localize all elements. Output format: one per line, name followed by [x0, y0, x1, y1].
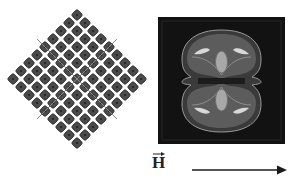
lattice-element-center	[92, 126, 94, 128]
lattice-element-center	[84, 134, 86, 136]
lattice-element-center	[132, 70, 134, 72]
lattice-element-center	[12, 78, 14, 80]
lattice-element-center	[60, 78, 62, 80]
lattice-element-center	[36, 102, 38, 104]
lattice-element-center	[44, 78, 46, 80]
lattice-element-center	[20, 86, 22, 88]
lattice-element-center	[76, 30, 78, 32]
lattice-element-center	[100, 86, 102, 88]
lattice-element-center	[108, 62, 110, 64]
lattice-element-center	[68, 134, 70, 136]
lattice-element-center	[36, 54, 38, 56]
lattice-element-center	[108, 78, 110, 80]
lattice-element-center	[92, 30, 94, 32]
lattice-element-center	[108, 94, 110, 96]
upper-core	[216, 51, 228, 73]
lattice-element-center	[76, 46, 78, 48]
lattice-element-center	[76, 142, 78, 144]
lattice-element-center	[132, 86, 134, 88]
lattice-element-center	[92, 110, 94, 112]
lattice-element-center	[60, 126, 62, 128]
lattice-element-center	[68, 118, 70, 120]
lattice-element-center	[36, 86, 38, 88]
lattice-element-center	[52, 70, 54, 72]
lattice-element-center	[60, 110, 62, 112]
lattice-element-center	[124, 78, 126, 80]
lattice-element-center	[36, 70, 38, 72]
lattice-element-center	[68, 54, 70, 56]
lattice-element-center	[44, 62, 46, 64]
simulation-panel	[158, 17, 285, 144]
lattice-element-center	[124, 62, 126, 64]
lattice-element-center	[116, 54, 118, 56]
lattice-element-center	[76, 94, 78, 96]
field-direction-arrow-icon	[192, 164, 287, 176]
lattice-element-center	[124, 94, 126, 96]
lattice-element-center	[92, 78, 94, 80]
lattice-element-center	[92, 46, 94, 48]
lattice-element-center	[84, 118, 86, 120]
lattice-element-center	[52, 38, 54, 40]
lattice-element-center	[84, 38, 86, 40]
lattice-element-center	[76, 14, 78, 16]
lattice-element-center	[28, 94, 30, 96]
contour-map	[158, 17, 285, 144]
lattice-element-center	[84, 54, 86, 56]
lattice-element-center	[100, 38, 102, 40]
lattice-element-center	[44, 94, 46, 96]
lattice-element-center	[116, 102, 118, 104]
lattice-element-center	[100, 118, 102, 120]
lattice-element-center	[116, 70, 118, 72]
lattice-element-center	[20, 70, 22, 72]
lattice-element-center	[76, 62, 78, 64]
lattice-element-center	[76, 126, 78, 128]
lattice-element-center	[60, 30, 62, 32]
lattice-element-center	[28, 62, 30, 64]
lattice-element-center	[52, 118, 54, 120]
lattice-element-center	[76, 110, 78, 112]
lattice-element-center	[84, 102, 86, 104]
lattice-element-center	[140, 78, 142, 80]
lattice-element-center	[60, 46, 62, 48]
field-label: H	[152, 153, 165, 173]
lattice-element-center	[68, 22, 70, 24]
lattice-diagram	[0, 0, 155, 160]
lattice-element-center	[52, 86, 54, 88]
lattice-element-center	[68, 38, 70, 40]
lattice-element-center	[100, 70, 102, 72]
lattice-element-center	[28, 78, 30, 80]
lattice-element-center	[84, 22, 86, 24]
lattice-element-center	[116, 86, 118, 88]
lower-core	[216, 89, 228, 111]
lattice-element-center	[68, 102, 70, 104]
